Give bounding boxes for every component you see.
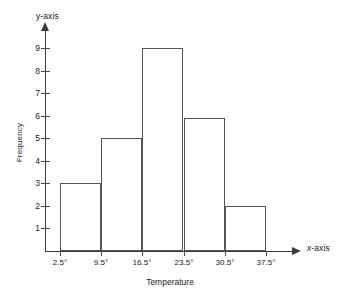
histogram-chart: y-axis x-axis Frequency Temperature 1234… (0, 0, 346, 297)
histogram-bar (101, 138, 142, 251)
x-tick-label: 37.5° (246, 259, 286, 267)
y-axis-arrow-icon (41, 22, 49, 31)
y-tick-label: 1 (18, 224, 40, 233)
y-tick-mark (41, 161, 50, 162)
x-tick-mark (184, 251, 185, 256)
y-tick-mark (41, 71, 50, 72)
y-tick-mark (41, 48, 50, 49)
y-tick-mark (41, 206, 50, 207)
x-tick-mark (142, 251, 143, 256)
x-axis-arrow-icon (292, 247, 301, 255)
x-tick-label: 16.5° (122, 259, 162, 267)
x-tick-mark (60, 251, 61, 256)
y-tick-mark (41, 183, 50, 184)
histogram-bar (60, 183, 101, 251)
x-tick-mark (101, 251, 102, 256)
y-tick-mark (41, 138, 50, 139)
x-tick-label: 2.5° (40, 259, 80, 267)
y-tick-label: 5 (18, 134, 40, 143)
x-tick-label: 23.5° (164, 259, 204, 267)
y-tick-mark (41, 93, 50, 94)
x-axis-title: Temperature (80, 277, 260, 287)
y-tick-label: 2 (18, 202, 40, 211)
x-axis-line (45, 251, 293, 252)
y-tick-mark (41, 116, 50, 117)
y-tick-label: 4 (18, 157, 40, 166)
histogram-bar (184, 118, 225, 251)
x-tick-label: 30.5° (205, 259, 245, 267)
y-tick-mark (41, 228, 50, 229)
y-tick-label: 8 (18, 67, 40, 76)
y-tick-label: 6 (18, 112, 40, 121)
y-axis-line (45, 30, 46, 252)
y-axis-name-label: y-axis (36, 11, 59, 21)
histogram-bar (142, 48, 183, 251)
y-tick-label: 3 (18, 179, 40, 188)
y-tick-label: 7 (18, 89, 40, 98)
x-tick-mark (225, 251, 226, 256)
x-tick-label: 9.5° (81, 259, 121, 267)
y-tick-label: 9 (18, 44, 40, 53)
x-axis-name-label: x-axis (307, 243, 330, 253)
x-tick-mark (266, 251, 267, 256)
histogram-bar (225, 206, 266, 251)
